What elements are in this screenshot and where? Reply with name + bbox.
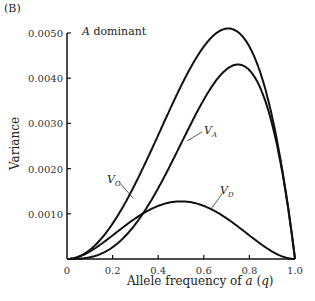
svg-text:0.0050: 0.0050 [28, 28, 63, 39]
panel-label: (B) [4, 2, 21, 15]
x-axis-label: Allele frequency of a (q) [127, 274, 274, 288]
plot-area: 0.00100.00200.00300.00400.005000.20.40.6… [0, 0, 315, 301]
va-label: VA [204, 124, 217, 139]
svg-text:0.0020: 0.0020 [28, 164, 63, 175]
svg-text:0: 0 [64, 265, 70, 276]
y-axis-label: Variance [8, 117, 22, 170]
svg-text:0.2: 0.2 [105, 265, 121, 276]
svg-text:1.0: 1.0 [287, 265, 303, 276]
svg-text:0.0040: 0.0040 [28, 73, 63, 84]
svg-text:0.0030: 0.0030 [28, 118, 63, 129]
vd-label: VD [220, 184, 234, 199]
svg-text:0.0010: 0.0010 [28, 209, 63, 220]
vg-label: VG [107, 173, 121, 188]
annotation: A dominant [82, 25, 146, 38]
chart: 0.00100.00200.00300.00400.005000.20.40.6… [0, 0, 315, 301]
